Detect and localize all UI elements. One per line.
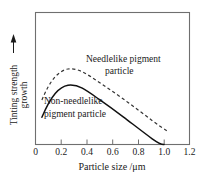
- x-tick-label-2: 0.4: [81, 147, 93, 157]
- annotation-needlelike-line1: Needlelike pigment: [86, 54, 161, 64]
- annotation-needlelike-line2: particle: [105, 66, 133, 76]
- x-tick-label-5: 1.0: [158, 147, 170, 157]
- y-axis-label-group: Tinting strength growth: [9, 34, 29, 125]
- plot-frame: [36, 13, 190, 145]
- x-tick-label-1: 0.2: [55, 147, 67, 157]
- x-axis-tick-labels: 0 0.2 0.4 0.6 0.8 1.0 1.2: [33, 147, 196, 157]
- x-axis-title: Particle size /μm: [78, 161, 145, 172]
- annotation-non-needlelike: Non-needlelike pigment particle: [44, 96, 106, 119]
- y-axis-title-line1: Tinting strength: [9, 64, 19, 125]
- annotation-non-needlelike-line1: Non-needlelike: [44, 96, 103, 106]
- annotation-non-needlelike-line2: pigment particle: [44, 109, 106, 119]
- x-tick-label-3: 0.6: [107, 147, 119, 157]
- x-tick-label-6: 1.2: [184, 147, 196, 157]
- x-tick-label-4: 0.8: [133, 147, 145, 157]
- chart-figure: 0 0.2 0.4 0.6 0.8 1.0 1.2 Particle size …: [0, 0, 204, 177]
- y-axis-title-line2: growth: [19, 81, 29, 108]
- annotation-needlelike: Needlelike pigment particle: [86, 54, 161, 76]
- x-tick-label-0: 0: [33, 147, 38, 157]
- y-axis-arrow-icon: [11, 34, 17, 53]
- chart-canvas: 0 0.2 0.4 0.6 0.8 1.0 1.2 Particle size …: [0, 0, 204, 177]
- x-axis-ticks: [36, 140, 190, 145]
